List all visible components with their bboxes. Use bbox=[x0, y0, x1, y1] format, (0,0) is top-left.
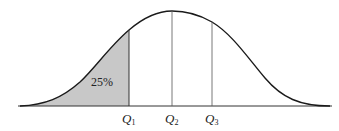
shaded-area-25-percent bbox=[20, 30, 129, 106]
q1-label: Q1 bbox=[122, 111, 135, 127]
bell-curve bbox=[20, 11, 330, 106]
distribution-svg: 25% Q1 Q2 Q3 bbox=[0, 0, 339, 131]
q2-label: Q2 bbox=[165, 111, 178, 127]
q3-label: Q3 bbox=[205, 111, 218, 127]
normal-distribution-figure: 25% Q1 Q2 Q3 bbox=[0, 0, 339, 131]
percent-label: 25% bbox=[91, 75, 113, 89]
